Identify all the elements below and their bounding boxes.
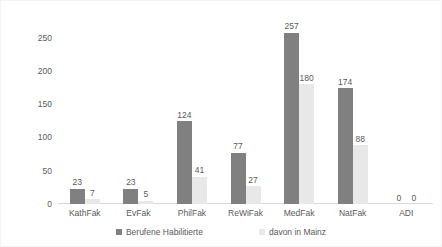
bar-slot: 257 — [284, 21, 299, 204]
bar-value-label: 5 — [143, 190, 148, 199]
bar-slot: 124 — [177, 21, 192, 204]
bar-value-label: 174 — [338, 78, 352, 87]
bar-value-label: 77 — [233, 142, 242, 151]
bar[interactable] — [138, 201, 153, 204]
bar-group: 257180 — [272, 21, 326, 204]
bar-value-label: 0 — [411, 194, 416, 203]
y-axis-tick-label: 50 — [43, 166, 52, 175]
bar-value-label: 88 — [355, 135, 364, 144]
bar-groups: 2372351244177272571801748800 — [58, 21, 433, 204]
bar-value-label: 180 — [300, 74, 314, 83]
x-axis-categories: KathFakEvFakPhilFakReWiFakMedFakNatFakAD… — [58, 206, 433, 220]
y-axis-tick-label: 150 — [38, 100, 52, 109]
bar[interactable] — [123, 189, 138, 204]
category-label: ADI — [379, 206, 433, 220]
bar-group: 17488 — [326, 21, 380, 204]
bar-group: 237 — [58, 21, 112, 204]
legend-item[interactable]: Berufene Habilitierte — [116, 228, 203, 237]
bar-slot: 41 — [192, 21, 207, 204]
bar-slot: 0 — [406, 21, 421, 204]
y-axis-tick-label: 200 — [38, 67, 52, 76]
bar-value-label: 41 — [195, 166, 204, 175]
bar[interactable] — [177, 121, 192, 204]
bar[interactable] — [299, 84, 314, 204]
bar-slot: 88 — [353, 21, 368, 204]
y-axis-tick-label: 0 — [47, 200, 52, 209]
bar-value-label: 27 — [248, 176, 257, 185]
category-label: NatFak — [326, 206, 380, 220]
bar-chart: 050100150200250 237235124417727257180174… — [0, 0, 442, 247]
bar-value-label: 124 — [177, 111, 191, 120]
bar-slot: 7 — [85, 21, 100, 204]
bar-group: 235 — [112, 21, 166, 204]
legend-swatch-light — [259, 229, 265, 235]
bar[interactable] — [85, 199, 100, 204]
chart-legend: Berufene Habilitiertedavon in Mainz — [1, 225, 441, 239]
y-axis-tick-label: 250 — [38, 33, 52, 42]
category-label: ReWiFak — [219, 206, 273, 220]
bar-value-label: 257 — [285, 22, 299, 31]
bar[interactable] — [284, 33, 299, 204]
plot-area: 2372351244177272571801748800 — [58, 21, 433, 204]
bar-value-label: 23 — [126, 178, 135, 187]
bar-slot: 0 — [391, 21, 406, 204]
category-label: KathFak — [58, 206, 112, 220]
bar-value-label: 23 — [73, 178, 82, 187]
bar-slot: 180 — [299, 21, 314, 204]
bar-slot: 174 — [338, 21, 353, 204]
y-axis: 050100150200250 — [1, 21, 52, 204]
bar[interactable] — [70, 189, 85, 204]
bar-value-label: 0 — [396, 194, 401, 203]
legend-swatch-dark — [116, 229, 122, 235]
legend-label: davon in Mainz — [269, 228, 326, 237]
bar-slot: 23 — [70, 21, 85, 204]
legend-label: Berufene Habilitierte — [126, 228, 203, 237]
category-label: EvFak — [112, 206, 166, 220]
category-label: PhilFak — [165, 206, 219, 220]
category-label: MedFak — [272, 206, 326, 220]
bar-slot: 5 — [138, 21, 153, 204]
bar-slot: 77 — [231, 21, 246, 204]
bar[interactable] — [338, 88, 353, 204]
bar-slot: 23 — [123, 21, 138, 204]
bar-group: 12441 — [165, 21, 219, 204]
bar[interactable] — [353, 145, 368, 204]
legend-item[interactable]: davon in Mainz — [259, 228, 326, 237]
bar[interactable] — [192, 177, 207, 204]
bar[interactable] — [246, 186, 261, 204]
y-axis-tick-label: 100 — [38, 133, 52, 142]
bar-value-label: 7 — [90, 189, 95, 198]
bar-slot: 27 — [246, 21, 261, 204]
bar-group: 7727 — [219, 21, 273, 204]
bar[interactable] — [231, 153, 246, 204]
bar-group: 00 — [379, 21, 433, 204]
